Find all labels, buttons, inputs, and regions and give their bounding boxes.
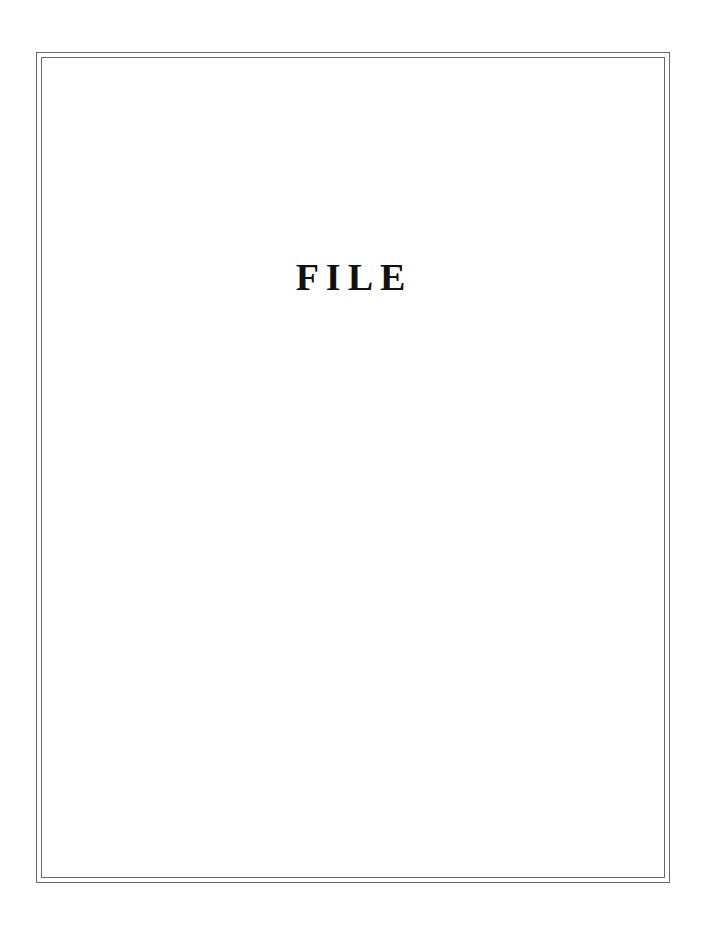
page-title: FILE bbox=[0, 258, 701, 296]
page-border-inner bbox=[41, 57, 665, 878]
